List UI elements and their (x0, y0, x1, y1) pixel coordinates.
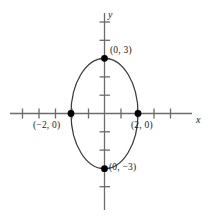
point-right (135, 110, 142, 117)
point-top (101, 55, 108, 62)
point-label-right: (2, 0) (131, 120, 153, 130)
y-axis-label: y (108, 9, 112, 20)
point-left (68, 110, 75, 117)
plot-canvas (0, 0, 208, 220)
point-label-left: (−2, 0) (33, 120, 60, 130)
point-label-top: (0, 3) (110, 45, 132, 55)
point-bottom (101, 165, 108, 172)
x-axis-label: x (196, 114, 200, 125)
point-label-bottom: (0, −3) (109, 162, 136, 172)
ellipse-graph-figure: (0, 3) (2, 0) (0, −3) (−2, 0) x y (0, 0, 208, 220)
